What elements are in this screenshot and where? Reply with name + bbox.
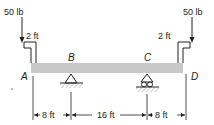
dimension-label-bc: 16 ft	[97, 110, 115, 120]
left-bracket	[24, 42, 36, 63]
point-label-a: A	[20, 71, 28, 82]
left-load-arrow-icon	[20, 17, 25, 43]
beam-diagram: 50 lb 2 ft 50 lb 2 ft A B C D	[0, 0, 214, 125]
right-bracket	[178, 42, 190, 63]
left-arm-label: 2 ft	[26, 31, 39, 41]
dimension-label-cd: 8 ft	[155, 110, 168, 120]
point-label-c: C	[144, 52, 152, 63]
left-load-label: 50 lb	[4, 7, 24, 17]
stray-dot	[11, 88, 12, 89]
right-arm-label: 2 ft	[158, 31, 171, 41]
pin-support-icon	[60, 74, 83, 88]
point-label-d: D	[191, 71, 198, 82]
roller-support-icon	[136, 74, 159, 92]
right-load-label: 50 lb	[183, 7, 203, 17]
dimension-label-ab: 8 ft	[42, 110, 55, 120]
beam	[31, 63, 183, 73]
right-load-arrow-icon	[190, 17, 195, 43]
point-label-b: B	[68, 52, 75, 63]
